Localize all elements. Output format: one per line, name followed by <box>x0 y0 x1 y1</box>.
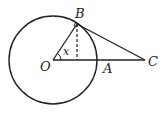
label-angle-x: x <box>63 45 70 58</box>
angle-arc-x <box>58 53 62 60</box>
segment-bc <box>77 24 145 60</box>
label-o: O <box>40 59 51 74</box>
geometry-diagram: B O A C x <box>0 0 168 113</box>
label-a: A <box>102 61 112 76</box>
label-c: C <box>148 54 158 69</box>
label-b: B <box>74 6 85 21</box>
